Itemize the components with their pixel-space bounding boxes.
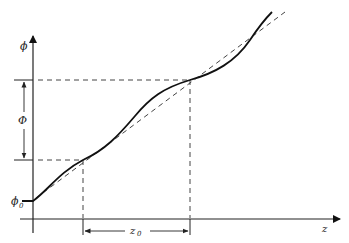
phi0-subscript: 0 [19,202,24,210]
z0-label: z [129,225,136,236]
phase-curve [22,12,272,201]
diagram-canvas: ϕ z Φ ϕ 0 z 0 [0,0,349,243]
mean-trend-line [36,12,285,198]
x-axis-label: z [321,223,328,234]
phase-diagram: ϕ z Φ ϕ 0 z 0 [0,0,349,243]
y-axis-label: ϕ [20,40,28,53]
phi0-label: ϕ [11,195,19,208]
phi-span-label: Φ [18,114,27,127]
z0-subscript: 0 [137,230,142,238]
